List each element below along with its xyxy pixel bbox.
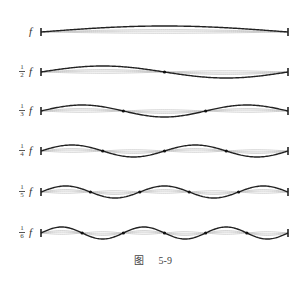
string-row-1 [41,26,288,36]
node-dot [163,231,166,234]
node-dot [237,190,240,193]
node-dot [81,231,84,234]
node-dot [89,190,92,193]
frequency-label: f [29,65,32,77]
frequency-label: f [29,144,32,156]
node-dot [204,231,207,234]
ghost-wave [41,32,288,33]
standing-wave [41,105,288,117]
fraction-label: 14 [19,143,25,158]
string-row-5 [41,186,288,198]
node-dot [122,109,125,112]
string-row-2 [41,66,288,78]
ghost-wave [41,190,288,195]
node-dot [245,231,248,234]
figure-caption: 图 5-9 [0,252,306,267]
frequency-label: f [29,226,32,238]
fraction-label: 15 [19,184,25,199]
node-dot [163,70,166,73]
caption-number: 5-9 [159,255,172,266]
fraction-label: 13 [19,103,25,118]
node-dot [188,190,191,193]
fraction-label: 12 [19,64,25,79]
string-row-3 [41,105,288,117]
node-dot [225,149,228,152]
ghost-wave [41,110,288,112]
fraction-label: 16 [19,225,25,240]
node-dot [204,109,207,112]
string-row-4 [41,145,288,157]
frequency-label: f [29,25,32,37]
ghost-wave [41,109,288,114]
frequency-label: f [29,185,32,197]
frequency-label: f [29,104,32,116]
node-dot [122,231,125,234]
node-dot [101,149,104,152]
string-row-6 [41,227,288,239]
standing-waves-diagram [0,0,306,281]
caption-prefix: 图 [134,255,144,266]
node-dot [163,149,166,152]
standing-wave [41,186,288,198]
node-dot [138,190,141,193]
